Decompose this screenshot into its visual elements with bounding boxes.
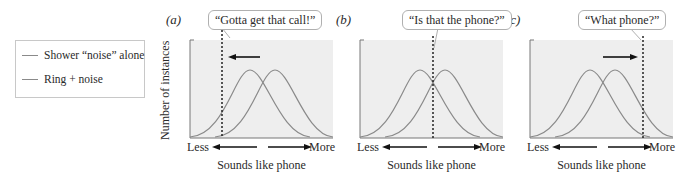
legend: Shower “noise” alone Ring + noise xyxy=(15,40,145,98)
x-axis-less: Less xyxy=(187,140,209,155)
legend-label-ring: Ring + noise xyxy=(44,73,103,85)
x-axis-less: Less xyxy=(357,140,379,155)
x-axis-less: Less xyxy=(527,140,549,155)
x-axis-label: Sounds like phone xyxy=(160,158,335,173)
legend-line-noise xyxy=(22,55,38,56)
panel-a: (a) “Gotta get that call!” Number of ins… xyxy=(160,0,335,185)
panel-c: (c) “What phone?” Less More Sounds like … xyxy=(500,0,675,185)
speech-bubble: “Gotta get that call!” xyxy=(208,10,322,30)
legend-item-ring: Ring + noise xyxy=(22,73,103,85)
speech-bubble: “What phone?” xyxy=(578,10,666,30)
panel-b: (b) “Is that the phone?” Less More Sound… xyxy=(330,0,505,185)
speech-bubble: “Is that the phone?” xyxy=(402,10,512,30)
legend-line-ring xyxy=(22,79,38,80)
x-axis-label: Sounds like phone xyxy=(330,158,505,173)
legend-label-noise: Shower “noise” alone xyxy=(44,49,144,61)
x-axis-more: More xyxy=(649,140,675,155)
legend-item-noise: Shower “noise” alone xyxy=(22,49,144,61)
x-axis-label: Sounds like phone xyxy=(500,158,675,173)
